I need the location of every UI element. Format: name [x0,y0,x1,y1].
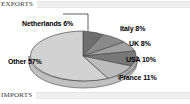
exports-pie-chart: Netherlands 6% Italy 8% UK 8% USA 10% Fr… [0,9,190,91]
section-title-exports: EXPORTS [0,0,33,9]
pie-label-other: Other 57% [8,58,42,66]
pie-label-france: France 11% [119,74,157,82]
pie-label-usa: USA 10% [126,56,156,64]
header-rule-bottom [36,92,190,99]
exports-imports-panel: EXPORTS [0,0,190,104]
section-header-exports: EXPORTS [0,0,190,9]
pie-label-italy: Italy 8% [120,25,145,33]
pie-label-netherlands: Netherlands 6% [22,20,73,28]
section-title-imports: IMPORTS [0,91,32,100]
section-header-imports: IMPORTS [0,91,190,100]
pie-label-uk: UK 8% [129,40,151,48]
header-rule-top [37,1,190,8]
